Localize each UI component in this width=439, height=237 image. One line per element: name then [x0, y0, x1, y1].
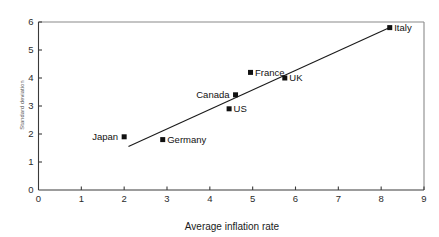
data-point-label: Germany	[167, 134, 206, 145]
x-tick-label: 9	[421, 193, 426, 204]
data-point-marker	[233, 92, 238, 97]
x-tick-label: 5	[250, 193, 255, 204]
data-point-label: Canada	[196, 89, 230, 100]
scatter-chart: 0123456789 0123456 JapanGermanyUSCanadaF…	[0, 0, 439, 237]
data-point-marker	[282, 76, 287, 81]
data-point-label: Italy	[394, 22, 412, 33]
data-point-marker	[387, 25, 392, 30]
y-tick-label: 1	[28, 156, 33, 167]
y-tick-label: 3	[28, 100, 33, 111]
x-tick-label: 1	[79, 193, 84, 204]
x-axis-title: Average inflation rate	[185, 221, 280, 232]
y-tick-label: 4	[28, 72, 33, 83]
data-point-marker	[160, 137, 165, 142]
y-tick-label: 5	[28, 44, 33, 55]
data-point-label: France	[255, 67, 285, 78]
data-point-marker	[227, 106, 232, 111]
x-tick-label: 8	[379, 193, 384, 204]
y-tick-label: 2	[28, 128, 33, 139]
x-tick-label: 6	[293, 193, 298, 204]
data-point-label: US	[234, 103, 247, 114]
data-point-label: Japan	[92, 131, 118, 142]
y-axis-title: Standard deviation	[19, 80, 25, 129]
data-point-label: UK	[289, 72, 303, 83]
x-tick-label: 2	[122, 193, 127, 204]
data-point-marker	[248, 70, 253, 75]
x-tick-label: 4	[207, 193, 212, 204]
data-point-marker	[122, 134, 127, 139]
x-tick-label: 7	[336, 193, 341, 204]
x-tick-label: 0	[36, 193, 41, 204]
y-tick-label: 6	[28, 16, 33, 27]
chart-screenshot: 0123456789 0123456 JapanGermanyUSCanadaF…	[0, 0, 439, 237]
y-tick-label: 0	[28, 184, 33, 195]
x-tick-label: 3	[164, 193, 169, 204]
